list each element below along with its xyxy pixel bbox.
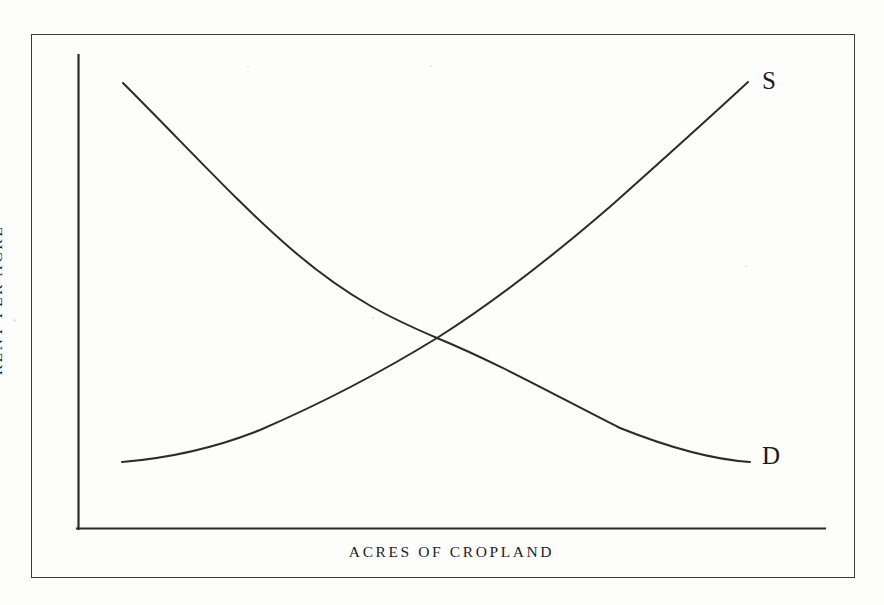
demand-curve-label: D [762,443,780,468]
x-axis-title: ACRES OF CROPLAND [78,543,825,561]
supply-curve-label: S [762,68,776,93]
figure-page: RENT PER ACRE ACRES OF CROPLAND S D [0,0,884,605]
supply-curve [122,82,748,462]
y-axis-title: RENT PER ACRE [0,200,6,400]
plot-canvas [0,0,884,605]
demand-curve [123,83,750,462]
